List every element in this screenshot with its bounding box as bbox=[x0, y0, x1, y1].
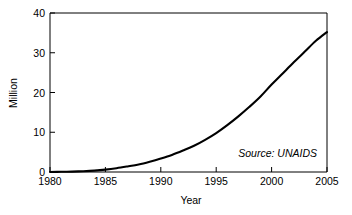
x-tick-label-2000: 2000 bbox=[260, 175, 284, 187]
source-annotation: Source: UNAIDS bbox=[238, 147, 317, 159]
x-axis-title: Year bbox=[180, 194, 202, 206]
x-tick-label-1980: 1980 bbox=[38, 175, 62, 187]
x-tick-label-1995: 1995 bbox=[205, 175, 229, 187]
y-tick-label-30: 30 bbox=[33, 47, 45, 59]
y-axis-title: Million bbox=[7, 78, 19, 108]
y-tick-label-20: 20 bbox=[33, 87, 45, 99]
chart-plot-svg: 0 10 20 30 40 1980 1985 1990 1995 2000 2… bbox=[0, 0, 352, 215]
chart-figure: 0 10 20 30 40 1980 1985 1990 1995 2000 2… bbox=[0, 0, 352, 215]
x-tick-label-1985: 1985 bbox=[94, 175, 118, 187]
y-tick-label-10: 10 bbox=[33, 126, 45, 138]
x-tick-label-2005: 2005 bbox=[315, 175, 339, 187]
x-tick-label-1990: 1990 bbox=[149, 175, 173, 187]
y-tick-label-40: 40 bbox=[33, 7, 45, 19]
